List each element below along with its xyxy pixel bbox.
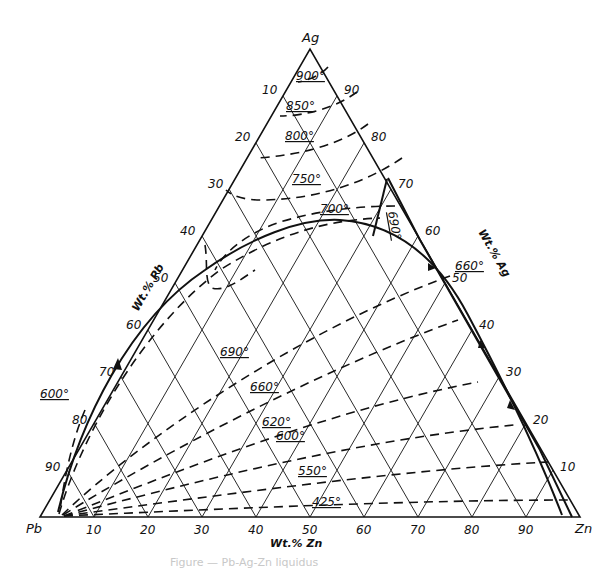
svg-text:425°: 425°	[312, 495, 341, 509]
svg-text:850°: 850°	[286, 99, 315, 113]
svg-text:70: 70	[99, 365, 115, 379]
svg-text:90: 90	[344, 83, 360, 97]
bottom-axis-ticks: 10 20 30 40 50 60 70 80 90	[86, 523, 534, 537]
svg-text:20: 20	[235, 130, 251, 144]
svg-text:40: 40	[479, 318, 495, 332]
svg-text:750°: 750°	[292, 172, 321, 186]
svg-text:70: 70	[410, 523, 426, 537]
svg-text:10: 10	[86, 523, 102, 537]
svg-text:700°: 700°	[320, 202, 349, 216]
svg-text:660°: 660°	[250, 380, 279, 394]
svg-text:900°: 900°	[296, 69, 325, 83]
svg-text:20: 20	[533, 413, 549, 427]
isotherm-label-690-side: 690°	[385, 210, 404, 241]
svg-text:30: 30	[208, 177, 224, 191]
svg-text:80: 80	[371, 130, 387, 144]
svg-text:80: 80	[464, 523, 480, 537]
svg-text:10: 10	[560, 460, 576, 474]
figure-caption: Figure — Pb-Ag-Zn liquidus	[170, 556, 318, 569]
corner-label-pb: Pb	[26, 521, 42, 536]
svg-text:50: 50	[302, 523, 318, 537]
ternary-phase-diagram: Ag Pb Zn 10 20 30 40 50 60 70 80 90 Wt.%…	[0, 0, 608, 571]
svg-text:600°: 600°	[276, 429, 305, 443]
svg-text:40: 40	[248, 523, 264, 537]
svg-text:620°: 620°	[262, 415, 291, 429]
svg-text:690°: 690°	[220, 345, 249, 359]
svg-text:60: 60	[126, 318, 142, 332]
corner-label-ag: Ag	[301, 30, 319, 45]
triangle-outline	[40, 49, 580, 517]
svg-text:30: 30	[194, 523, 210, 537]
svg-text:10: 10	[262, 83, 278, 97]
isotherm-label-660-right: 660°	[455, 259, 484, 273]
svg-text:30: 30	[506, 365, 522, 379]
svg-text:70: 70	[398, 177, 414, 191]
svg-text:80: 80	[72, 413, 88, 427]
tie-line-690	[373, 179, 387, 236]
svg-text:60: 60	[356, 523, 372, 537]
svg-text:50: 50	[452, 271, 468, 285]
right-axis-ticks: 90 80 70 60 50 40 30 20 10	[344, 83, 576, 474]
svg-text:40: 40	[180, 224, 196, 238]
svg-text:550°: 550°	[298, 464, 327, 478]
svg-text:90: 90	[518, 523, 534, 537]
axis-title-zn: Wt.% Zn	[270, 537, 322, 550]
svg-text:800°: 800°	[285, 129, 314, 143]
svg-text:60: 60	[425, 224, 441, 238]
svg-text:90: 90	[45, 460, 61, 474]
corner-label-zn: Zn	[574, 521, 592, 536]
svg-text:20: 20	[140, 523, 156, 537]
isotherm-label-600-left: 600°	[40, 387, 69, 401]
